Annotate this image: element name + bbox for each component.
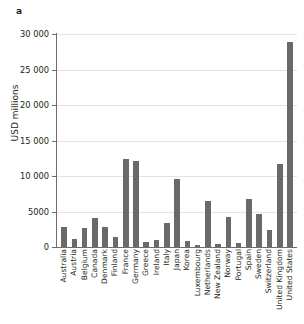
bar-slot (213, 34, 223, 247)
bar[interactable] (226, 217, 232, 247)
bar-slot (131, 34, 141, 247)
bar-slot (275, 34, 285, 247)
bar[interactable] (195, 245, 201, 247)
x-label-slot: Portugal (234, 249, 244, 324)
x-label-slot: Germany (131, 249, 141, 324)
x-axis-tick-labels: AustraliaAustriaBelgiumCanadaDenmarkFinl… (57, 249, 297, 324)
bar-slot (264, 34, 274, 247)
x-axis-tick-label: Spain (245, 249, 253, 270)
bar[interactable] (215, 244, 221, 247)
bar-slot (192, 34, 202, 247)
x-axis-tick-label: Denmark (101, 249, 109, 284)
y-axis-tick-label: 0 (44, 242, 49, 252)
x-axis-tick-label: Switzerland (266, 249, 274, 293)
x-axis-tick-label: Germany (132, 249, 140, 284)
bar-slot (90, 34, 100, 247)
bar-slot (203, 34, 213, 247)
x-axis-tick-label: United States (286, 249, 294, 300)
x-label-slot: New Zealand (213, 249, 223, 324)
x-label-slot: Belgium (80, 249, 90, 324)
bar-slot (244, 34, 254, 247)
bar[interactable] (185, 241, 191, 247)
bar[interactable] (267, 230, 273, 247)
x-axis-tick-label: Canada (91, 249, 99, 278)
bar-slot (69, 34, 79, 247)
bar-slot (172, 34, 182, 247)
bar[interactable] (277, 164, 283, 247)
y-axis-tick-label: 30 000 (20, 29, 49, 39)
y-axis-tick-label: 25 000 (20, 65, 49, 75)
bar[interactable] (236, 243, 242, 247)
x-label-slot: Australia (59, 249, 69, 324)
bar[interactable] (205, 201, 211, 247)
bar[interactable] (72, 239, 78, 247)
bar-slot (141, 34, 151, 247)
y-axis-tick-label: 5000 (28, 207, 49, 217)
y-axis-tick (52, 141, 56, 142)
bar-slot (110, 34, 120, 247)
x-axis-tick-label: Belgium (81, 249, 89, 280)
x-label-slot: Greece (141, 249, 151, 324)
y-axis-tick (52, 247, 56, 248)
x-axis-tick-label: Japan (173, 249, 181, 270)
bar-series (57, 34, 297, 247)
bar[interactable] (123, 159, 129, 247)
bar-slot (182, 34, 192, 247)
bar[interactable] (164, 223, 170, 247)
figure-panel-a: a USD millions 0500010 00015 00020 00025… (0, 0, 304, 324)
x-axis-line (56, 247, 297, 248)
x-label-slot: Finland (110, 249, 120, 324)
x-label-slot: Luxembourg (192, 249, 202, 324)
bar-slot (285, 34, 295, 247)
bar[interactable] (82, 228, 88, 247)
x-label-slot: Italy (162, 249, 172, 324)
x-label-slot: United Kingdom (275, 249, 285, 324)
bar[interactable] (246, 199, 252, 247)
x-axis-tick-label: Korea (184, 249, 192, 271)
bar[interactable] (113, 237, 119, 247)
bar-slot (151, 34, 161, 247)
y-axis-tick (52, 70, 56, 71)
bar[interactable] (92, 218, 98, 247)
bar-slot (254, 34, 264, 247)
x-label-slot: Canada (90, 249, 100, 324)
y-axis-tick-labels: 0500010 00015 00020 00025 00030 000 (0, 0, 51, 324)
bar[interactable] (102, 227, 108, 247)
x-axis-tick-label: Greece (142, 249, 150, 276)
bar-slot (80, 34, 90, 247)
x-axis-tick-label: New Zealand (214, 249, 222, 299)
y-axis-tick-label: 20 000 (20, 100, 49, 110)
x-axis-tick-label: Australia (60, 249, 68, 283)
y-axis-tick-label: 10 000 (20, 171, 49, 181)
bar-slot (59, 34, 69, 247)
y-axis-tick (52, 176, 56, 177)
x-axis-tick-label: Netherlands (204, 249, 212, 295)
y-axis-tick-label: 15 000 (20, 136, 49, 146)
y-axis-tick (52, 212, 56, 213)
x-label-slot: Denmark (100, 249, 110, 324)
x-axis-tick-label: Italy (163, 249, 171, 265)
bar[interactable] (287, 42, 293, 247)
x-axis-tick-label: Sweden (255, 249, 263, 279)
bar[interactable] (174, 179, 180, 247)
x-axis-tick-label: United Kingdom (276, 249, 284, 310)
x-label-slot: Ireland (151, 249, 161, 324)
x-axis-tick-label: Ireland (153, 249, 161, 275)
bar[interactable] (154, 240, 160, 247)
x-axis-tick-label: Finland (112, 249, 120, 276)
x-label-slot: France (121, 249, 131, 324)
bar[interactable] (256, 214, 262, 247)
x-axis-tick-label: Luxembourg (194, 249, 202, 296)
x-label-slot: Spain (244, 249, 254, 324)
x-axis-tick-label: France (122, 249, 130, 274)
x-label-slot: Norway (223, 249, 233, 324)
y-axis-tick (52, 34, 56, 35)
bar[interactable] (133, 161, 139, 247)
x-axis-tick-label: Portugal (235, 249, 243, 280)
bar[interactable] (61, 227, 67, 247)
x-label-slot: Japan (172, 249, 182, 324)
bar-slot (100, 34, 110, 247)
x-label-slot: United States (285, 249, 295, 324)
x-axis-tick-label: Norway (225, 249, 233, 278)
bar[interactable] (143, 242, 149, 247)
